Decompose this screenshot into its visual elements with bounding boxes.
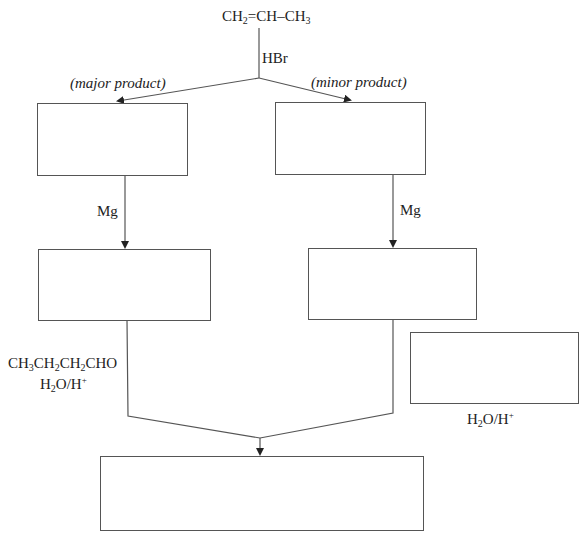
reagent-mg-right: Mg bbox=[400, 203, 421, 218]
reagent-acid-workup-left: H2O/H+ bbox=[40, 376, 87, 394]
reagent-hbr: HBr bbox=[262, 51, 288, 66]
converge-right-line bbox=[260, 319, 393, 438]
minor-product-label: (minor product) bbox=[311, 75, 407, 90]
reagent-mg-left: Mg bbox=[97, 204, 118, 219]
box-minor-bromide[interactable] bbox=[275, 102, 426, 175]
converge-left-line bbox=[127, 320, 260, 438]
box-final-product[interactable] bbox=[100, 456, 424, 531]
reagent-acid-workup-right: H2O/H+ bbox=[467, 411, 514, 429]
major-product-label: (major product) bbox=[70, 76, 166, 91]
starting-material: CH2=CH–CH3 bbox=[222, 9, 310, 26]
box-major-grignard[interactable] bbox=[38, 249, 211, 321]
box-major-bromide[interactable] bbox=[37, 103, 188, 176]
box-minor-grignard[interactable] bbox=[308, 248, 477, 320]
reagent-butanal: CH3CH2CH2CHO bbox=[8, 356, 117, 373]
box-side-reagent[interactable] bbox=[410, 332, 579, 404]
